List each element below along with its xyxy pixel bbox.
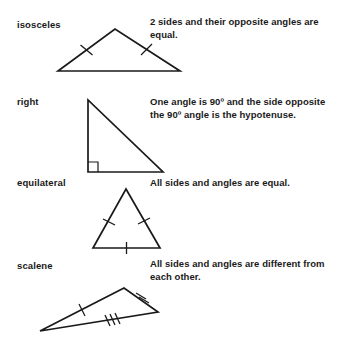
triangle-types-diagram: isosceles 2 sides and their opposite ang… xyxy=(0,0,347,343)
scalene-triangle-figure xyxy=(0,0,347,343)
scalene-triangle-shape xyxy=(40,288,158,331)
